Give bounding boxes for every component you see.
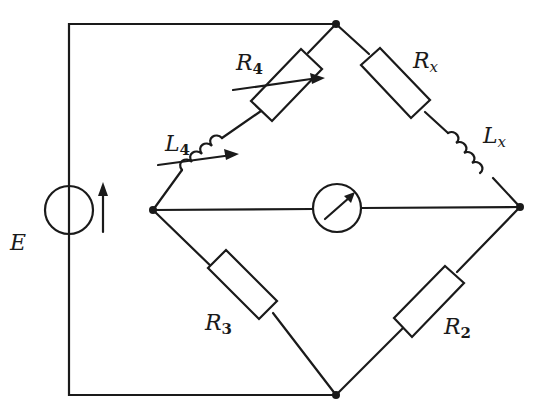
label-lx: Lx — [483, 125, 506, 150]
node-top — [332, 20, 340, 28]
node-left — [149, 206, 157, 214]
inductor-lx — [448, 132, 482, 173]
label-r2: R2 — [444, 316, 471, 341]
resistor-r3 — [208, 250, 277, 319]
circuit-drawing — [0, 0, 540, 418]
label-l4: L4 — [165, 133, 190, 158]
label-e: E — [10, 232, 26, 254]
label-rx: Rx — [413, 50, 438, 75]
node-bottom — [332, 391, 340, 399]
label-r4: R4 — [236, 52, 263, 77]
label-r3: R3 — [205, 312, 232, 337]
bridge-circuit-diagram: E R4 L4 Rx Lx R3 R2 — [0, 0, 540, 418]
node-right — [516, 203, 524, 211]
